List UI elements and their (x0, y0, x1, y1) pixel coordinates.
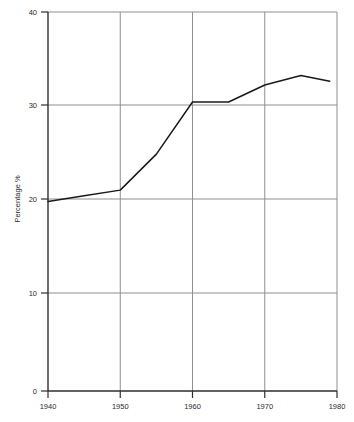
y-axis-title: Percentage % (13, 175, 22, 222)
y-tick-label-30: 30 (29, 101, 37, 110)
x-tick-label-1940: 1940 (40, 402, 57, 411)
x-tick-label-1980: 1980 (329, 402, 346, 411)
x-tick-label-1970: 1970 (256, 402, 273, 411)
y-tick-label-40: 40 (29, 8, 37, 17)
x-tick-label-1950: 1950 (112, 402, 129, 411)
y-tick-label-0: 0 (33, 387, 37, 396)
x-tick-label-1960: 1960 (184, 402, 201, 411)
line-chart: 40 30 20 10 0 1940 1950 1960 1970 1980 P… (0, 0, 354, 422)
x-axis-ticks (48, 391, 337, 398)
y-tick-label-20: 20 (29, 195, 37, 204)
y-axis-ticks (41, 12, 48, 391)
chart-canvas: 40 30 20 10 0 1940 1950 1960 1970 1980 P… (0, 0, 354, 422)
y-tick-label-10: 10 (29, 289, 37, 298)
